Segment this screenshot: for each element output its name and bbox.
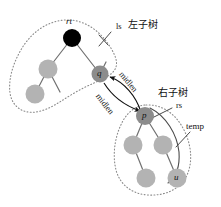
annotation-right-subtree: 右子树 (158, 88, 188, 98)
node-left-child (39, 60, 58, 79)
node-right-grandchild-1 (137, 169, 156, 188)
leader-ls (99, 32, 111, 46)
node-left-grandchild (26, 85, 45, 104)
node-label-p: p (142, 111, 147, 120)
node-label-q: q (97, 69, 102, 78)
diagram-canvas: rt q p u ls 左子树 右子树 rs temp midlen midle… (0, 0, 221, 207)
node-right-child-2 (154, 136, 173, 155)
node-right-child-1 (124, 136, 143, 155)
annotation-left-subtree: 左子树 (128, 20, 158, 30)
node-label-u: u (174, 173, 179, 182)
annotation-ls: ls (116, 22, 122, 31)
annotation-rs: rs (176, 101, 182, 110)
node-rt (63, 29, 81, 47)
node-label-rt: rt (66, 17, 72, 26)
annotation-temp: temp (186, 122, 204, 131)
